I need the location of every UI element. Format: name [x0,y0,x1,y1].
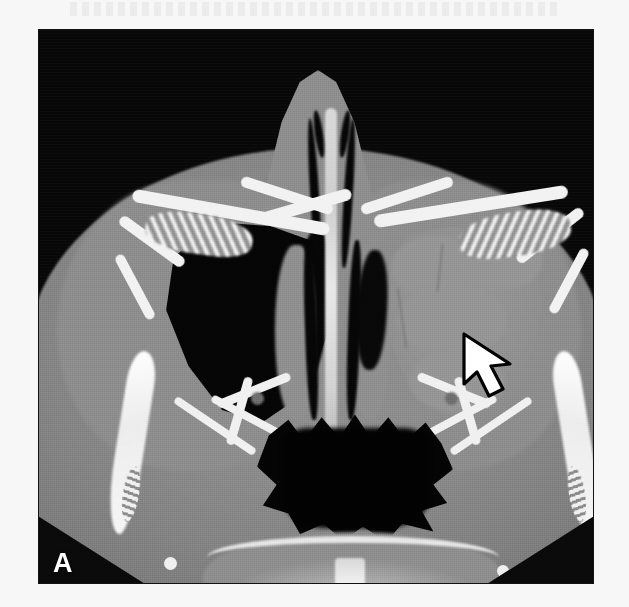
pterygopalatine-foramen-right [445,392,458,405]
panel-label: A [47,548,79,579]
arrow-marker [458,330,522,400]
pterygopalatine-foramen-left [251,392,264,405]
page-bleedthrough-artifact [70,2,560,16]
nasal-septum [325,108,337,438]
ct-image-frame: A [39,30,593,583]
vertebral-body [335,558,365,583]
nasopharyngeal-airspace-core [283,428,429,528]
scanned-page: A [0,0,629,607]
calcification-left [164,557,177,570]
